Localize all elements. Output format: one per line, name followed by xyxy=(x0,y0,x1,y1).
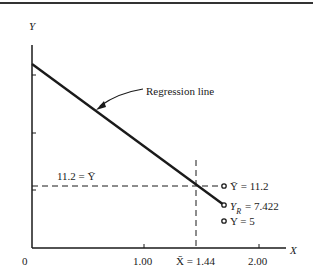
y5-label: Y = 5 xyxy=(230,215,255,227)
mean-y-right-label: Ȳ = 11.2 xyxy=(230,180,269,192)
y-axis-label: Y xyxy=(29,20,37,32)
regression-label: Regression line xyxy=(146,85,214,97)
x-axis-label: X xyxy=(289,244,298,256)
yr-label: YR= 7.422 xyxy=(230,200,279,216)
origin-label: 0 xyxy=(22,255,28,267)
point-y5 xyxy=(222,219,226,223)
point-ybar xyxy=(222,184,226,188)
arrow-icon xyxy=(100,89,143,106)
mean-y-left-label: 11.2 = Ȳ xyxy=(57,170,96,182)
regression-diagram: Y X 0 1.00 2.00 Regression line 11.2 = Ȳ… xyxy=(0,0,313,278)
tick-label-1: 1.00 xyxy=(133,255,153,267)
mean-x-label: X̄ = 1.44 xyxy=(176,255,215,267)
point-yr xyxy=(222,203,226,207)
tick-label-2: 2.00 xyxy=(248,255,268,267)
